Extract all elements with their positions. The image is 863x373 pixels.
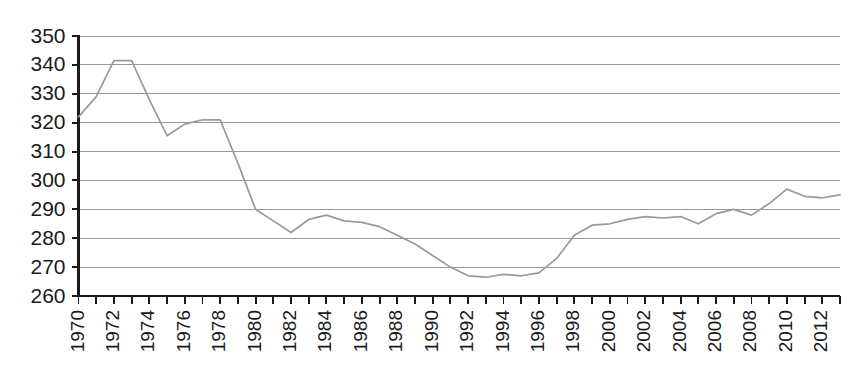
y-axis-tick-label: 310 — [30, 139, 65, 162]
x-axis-tick-label: 2002 — [633, 310, 654, 352]
y-axis-tick-label: 300 — [30, 168, 65, 191]
x-axis-tick-label: 1996 — [527, 310, 548, 352]
x-axis-tick-label: 1982 — [279, 310, 300, 352]
x-axis-tick-label: 1978 — [208, 310, 229, 352]
x-axis-tick-label: 2004 — [669, 310, 690, 353]
y-axis-tick-label: 260 — [30, 284, 65, 307]
y-axis-tick-label: 270 — [30, 255, 65, 278]
y-axis-tick-label: 350 — [30, 24, 65, 47]
x-axis-tick-label: 1998 — [562, 310, 583, 352]
y-axis-tick-label: 290 — [30, 197, 65, 220]
x-axis-tick-label: 1970 — [67, 310, 88, 352]
x-axis-tick-label: 1974 — [137, 310, 158, 353]
y-axis-tick-label: 330 — [30, 81, 65, 104]
y-axis-tick-label: 280 — [30, 226, 65, 249]
y-axis-tick-label: 320 — [30, 110, 65, 133]
x-axis-tick-label: 2008 — [739, 310, 760, 352]
x-axis-tick-label: 1980 — [244, 310, 265, 352]
y-axis-tick-label: 340 — [30, 52, 65, 75]
chart-canvas: 260270280290300310320330340350 197019721… — [0, 0, 863, 373]
x-axis-tick-label: 1986 — [350, 310, 371, 352]
x-axis-tick-label: 1994 — [492, 310, 513, 353]
x-axis-tick-label: 2000 — [598, 310, 619, 352]
x-axis-tick-label: 2012 — [810, 310, 831, 352]
x-axis-tick-label: 1984 — [314, 310, 335, 353]
x-axis-tick-label: 1972 — [102, 310, 123, 352]
line-chart: 260270280290300310320330340350 197019721… — [0, 0, 863, 373]
x-axis-tick-label: 1988 — [385, 310, 406, 352]
x-axis-tick-label: 2010 — [775, 310, 796, 352]
x-axis-tick-label: 1976 — [173, 310, 194, 352]
x-axis-tick-label: 1990 — [421, 310, 442, 352]
x-axis-tick-label: 1992 — [456, 310, 477, 352]
x-axis-tick-label: 2006 — [704, 310, 725, 352]
